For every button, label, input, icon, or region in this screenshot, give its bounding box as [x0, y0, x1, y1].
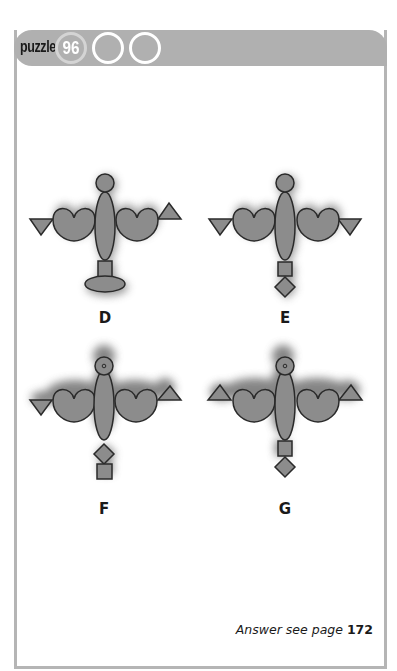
figure-label-f: F: [89, 500, 119, 518]
answer-reference: Answer see page 172: [236, 622, 373, 637]
figure-e: [209, 174, 361, 299]
answer-page-number: 172: [347, 622, 373, 637]
figure-d: [30, 174, 181, 296]
figure-label-e: E: [270, 309, 300, 327]
figure-label-d: D: [90, 309, 120, 327]
figure-label-g: G: [270, 500, 300, 518]
triangle-down-icon: [30, 219, 53, 235]
triangle-down-icon: [338, 219, 361, 235]
triangle-down-icon: [209, 219, 232, 235]
triangle-up-icon: [158, 203, 181, 219]
figure-g: [208, 345, 362, 477]
answer-text: Answer see page: [236, 622, 343, 637]
triangle-down-icon: [30, 400, 52, 415]
figures-canvas: [0, 0, 397, 671]
figure-f: [30, 345, 181, 479]
